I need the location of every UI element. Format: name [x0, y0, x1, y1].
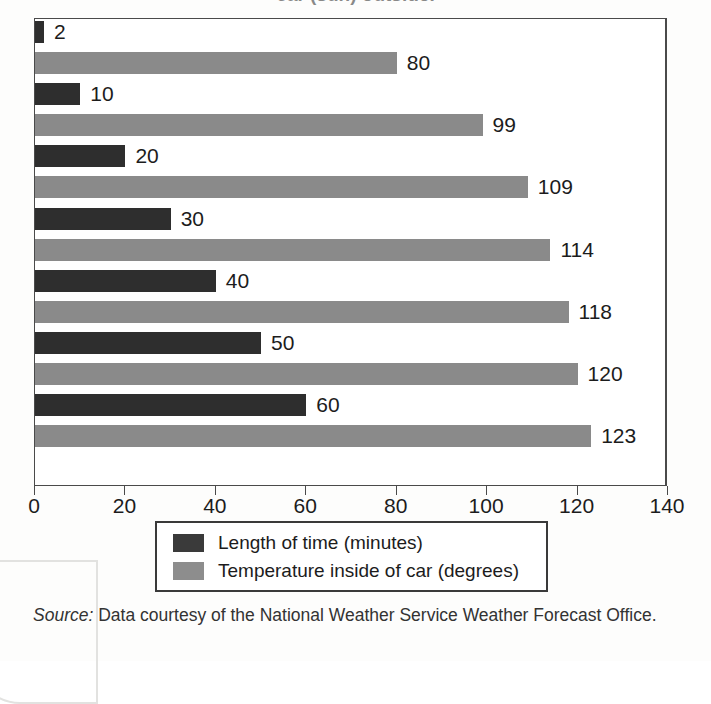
bar-time — [35, 270, 216, 292]
chart-title-text: car (sun) outside. — [0, 0, 711, 6]
bar-value-label: 60 — [316, 394, 339, 416]
bar-value-label: 114 — [560, 239, 593, 261]
source-note: Source: Data courtesy of the National We… — [33, 604, 673, 627]
x-axis-tick-mark — [305, 486, 306, 495]
x-axis-tick-mark — [34, 486, 35, 495]
x-axis-tick-mark — [215, 486, 216, 495]
bar-value-label: 109 — [538, 176, 573, 198]
x-axis-tick-label: 80 — [384, 494, 407, 518]
bar-time — [35, 394, 306, 416]
bar-time — [35, 21, 44, 43]
legend-item-time: Length of time (minutes) — [173, 529, 546, 557]
legend-label-temperature: Temperature inside of car (degrees) — [218, 560, 519, 582]
bar-time — [35, 208, 171, 230]
bar-temperature — [35, 176, 528, 198]
bar-temperature — [35, 52, 397, 74]
bar-value-label: 10 — [90, 83, 113, 105]
bar-time — [35, 332, 261, 354]
x-axis-tick-label: 40 — [203, 494, 226, 518]
chart-legend: Length of time (minutes) Temperature ins… — [155, 521, 548, 592]
bar-value-label: 120 — [588, 363, 623, 385]
legend-swatch-temperature-icon — [173, 562, 204, 580]
bar-temperature — [35, 425, 591, 447]
bar-temperature — [35, 239, 550, 261]
bar-value-label: 118 — [579, 301, 612, 323]
x-axis-tick-label: 20 — [113, 494, 136, 518]
bar-value-label: 123 — [601, 425, 636, 447]
source-label: Source: — [33, 605, 93, 625]
x-axis-tick-label: 140 — [649, 494, 684, 518]
bar-value-label: 80 — [407, 52, 430, 74]
x-axis-tick-mark — [124, 486, 125, 495]
legend-swatch-time-icon — [173, 534, 204, 552]
x-axis-tick-mark — [396, 486, 397, 495]
x-axis-tick-label: 60 — [294, 494, 317, 518]
bar-value-label: 30 — [181, 208, 204, 230]
x-axis-tick-label: 0 — [28, 494, 40, 518]
chart-title-clipped: car (sun) outside. — [0, 0, 711, 10]
source-text: Data courtesy of the National Weather Se… — [98, 605, 656, 625]
legend-item-temperature: Temperature inside of car (degrees) — [173, 557, 546, 585]
bar-value-label: 20 — [135, 145, 158, 167]
bar-temperature — [35, 363, 578, 385]
bar-value-label: 2 — [54, 21, 66, 43]
bar-time — [35, 145, 125, 167]
legend-label-time: Length of time (minutes) — [218, 532, 423, 554]
x-axis-tick-mark — [577, 486, 578, 495]
x-axis-tick-mark — [667, 486, 668, 495]
x-axis-tick-label: 120 — [559, 494, 594, 518]
bar-time — [35, 83, 80, 105]
bar-value-label: 40 — [226, 270, 249, 292]
bar-value-label: 50 — [271, 332, 294, 354]
x-axis-tick-label: 100 — [469, 494, 504, 518]
bar-value-label: 99 — [493, 114, 516, 136]
bars-layer: 28010992010930114401185012060123 — [35, 19, 666, 485]
bar-temperature — [35, 301, 569, 323]
bar-temperature — [35, 114, 483, 136]
x-axis-tick-mark — [486, 486, 487, 495]
